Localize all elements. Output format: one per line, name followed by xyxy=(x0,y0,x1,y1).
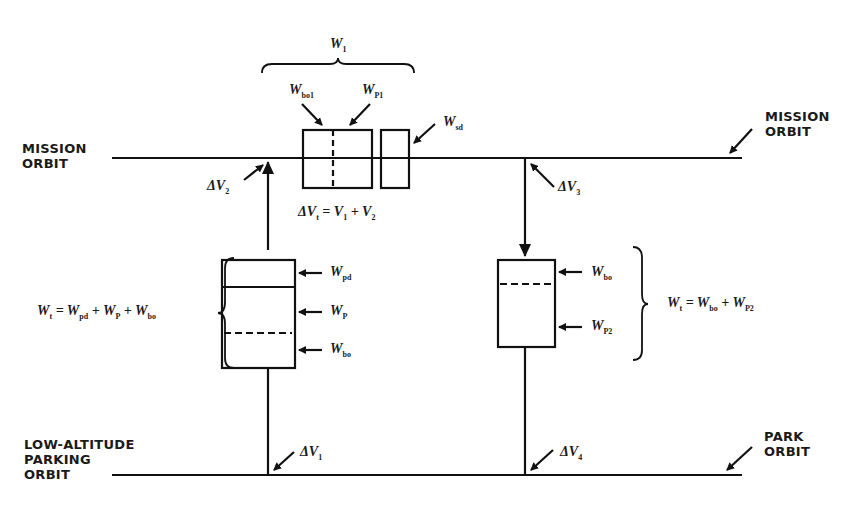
arrow-w-bo1 xyxy=(302,104,322,125)
right-stage-equation: Wt = Wbo + WP2 xyxy=(667,295,754,313)
subscript: 2 xyxy=(225,187,229,196)
symbol: W xyxy=(330,303,342,318)
arrow-dv2 xyxy=(244,165,263,180)
label-line: ORBIT xyxy=(24,467,135,482)
label-line: ORBIT xyxy=(764,444,810,459)
subscript: bo xyxy=(342,350,350,359)
symbol: W xyxy=(591,318,603,333)
park-orbit-label: PARK ORBIT xyxy=(764,429,810,459)
subscript: 1 xyxy=(318,453,322,462)
mission-orbit-label-right: MISSION ORBIT xyxy=(765,109,830,139)
symbol: W xyxy=(362,82,374,97)
left-stage-equation: Wt = Wpd + WP + Wbo xyxy=(37,303,156,321)
label-line: LOW-ALTITUDE xyxy=(24,437,135,452)
left-brace xyxy=(218,258,234,368)
mission-orbit-label-left: MISSION ORBIT xyxy=(22,141,87,171)
symbol: W xyxy=(330,341,342,356)
label-line: PARK xyxy=(764,429,810,444)
symbol: ΔV xyxy=(207,178,225,193)
top-group-label: W1 xyxy=(330,36,346,54)
label-w-p1: WP1 xyxy=(362,82,383,100)
label-w-bo1: Wbo1 xyxy=(289,82,314,100)
subscript: pd xyxy=(342,273,351,282)
label-right-w-p2: WP2 xyxy=(591,318,612,336)
label-left-w-pd: Wpd xyxy=(330,264,351,282)
label-dv3: ΔV3 xyxy=(558,179,580,197)
subscript: bo xyxy=(603,273,611,282)
arrow-dv1 xyxy=(274,452,294,470)
label-dv4: ΔV4 xyxy=(560,444,582,462)
label-line: MISSION xyxy=(765,109,830,124)
symbol: ΔV xyxy=(558,179,576,194)
right-stage-box xyxy=(498,260,555,347)
symbol: ΔV xyxy=(300,444,318,459)
label-line: ORBIT xyxy=(22,156,87,171)
top-brace xyxy=(262,58,414,73)
subscript: P2 xyxy=(603,327,612,336)
label-left-w-bo: Wbo xyxy=(330,341,351,359)
subscript: P xyxy=(342,312,347,321)
symbol: W xyxy=(591,264,603,279)
label-line: PARKING xyxy=(24,452,135,467)
symbol: W xyxy=(330,36,342,51)
subscript: bo1 xyxy=(301,91,313,100)
symbol: W xyxy=(289,82,301,97)
subscript: 4 xyxy=(578,453,582,462)
parking-orbit-label: LOW-ALTITUDE PARKING ORBIT xyxy=(24,437,135,482)
subscript: 1 xyxy=(342,45,346,54)
arrow-dv4 xyxy=(531,450,553,470)
right-brace xyxy=(633,247,648,360)
label-line: ORBIT xyxy=(765,124,830,139)
left-stage-box xyxy=(222,260,295,368)
orbit-transfer-diagram xyxy=(0,0,857,510)
label-dv2: ΔV2 xyxy=(207,178,229,196)
arrow-w-p1 xyxy=(350,104,370,125)
symbol: ΔV xyxy=(560,444,578,459)
label-w-sd: Wsd xyxy=(443,114,463,132)
subscript: P1 xyxy=(374,91,383,100)
arrow-park-orbit xyxy=(727,447,752,470)
label-left-w-p: WP xyxy=(330,303,347,321)
subscript: 3 xyxy=(576,188,580,197)
label-line: MISSION xyxy=(22,141,87,156)
top-stage-equation: ΔVt = V1 + V2 xyxy=(298,204,375,222)
label-right-w-bo: Wbo xyxy=(591,264,612,282)
symbol: W xyxy=(330,264,342,279)
symbol: W xyxy=(443,114,455,129)
arrow-w-sd xyxy=(414,124,435,143)
arrow-mission-orbit-right xyxy=(730,129,752,153)
label-dv1: ΔV1 xyxy=(300,444,322,462)
arrow-dv3 xyxy=(531,164,554,187)
subscript: sd xyxy=(455,123,463,132)
